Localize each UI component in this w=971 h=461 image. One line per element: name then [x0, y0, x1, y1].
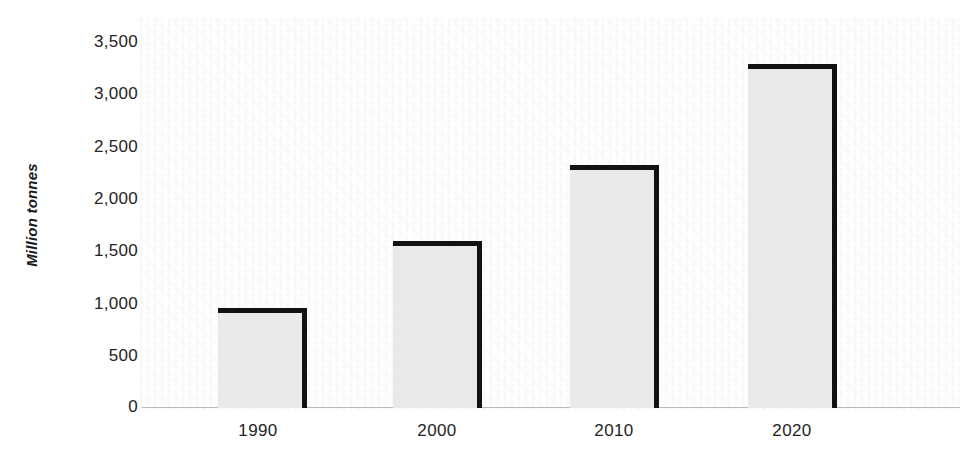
bar-2010 [570, 165, 659, 408]
bar-2020 [748, 64, 837, 408]
x-tick-label-1990: 1990 [238, 421, 277, 441]
bar-1990 [218, 308, 307, 408]
bar-2000 [393, 241, 482, 408]
bars-layer [0, 0, 971, 461]
plot-area: Million tonnes 3,500 3,000 2,500 2,000 1… [0, 0, 971, 461]
x-tick-label-2010: 2010 [594, 421, 633, 441]
x-tick-label-2020: 2020 [772, 421, 811, 441]
x-tick-label-2000: 2000 [417, 421, 456, 441]
bar-chart: Million tonnes 3,500 3,000 2,500 2,000 1… [0, 0, 971, 461]
